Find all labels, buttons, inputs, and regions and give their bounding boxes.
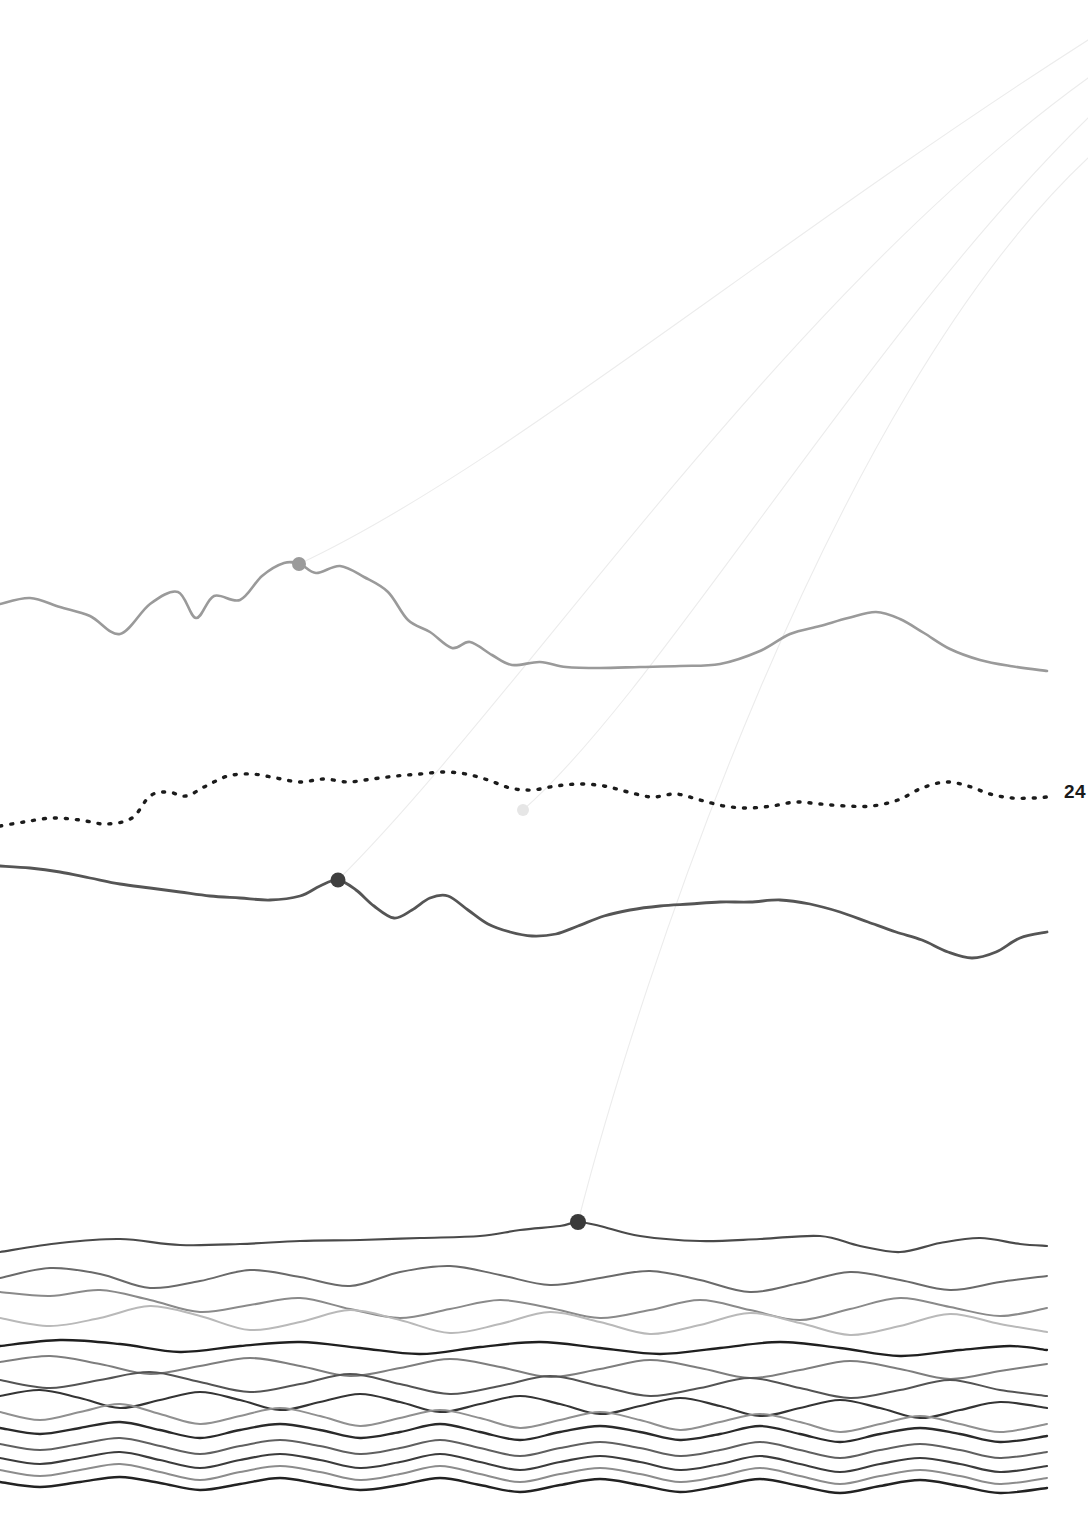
marker-upper-gray-dot[interactable] bbox=[292, 557, 306, 571]
marker-faint-pale-dot[interactable] bbox=[517, 804, 529, 816]
markers-layer bbox=[0, 0, 1088, 1533]
figure-canvas: 24 bbox=[0, 0, 1088, 1533]
marker-lower-dark-dot[interactable] bbox=[570, 1214, 586, 1230]
marker-mid-dark-dot[interactable] bbox=[331, 873, 346, 888]
axis-tick-label: 24 bbox=[1064, 781, 1086, 803]
